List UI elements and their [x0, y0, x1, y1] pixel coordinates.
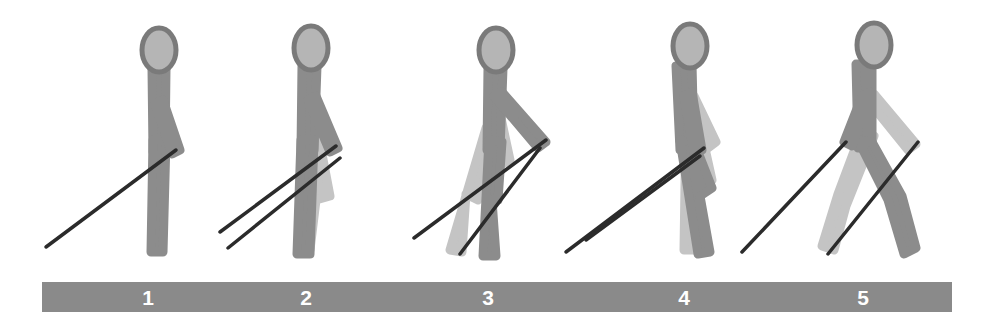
- step-number-label-1: 1: [142, 286, 154, 309]
- gait-figure-1-near-leg: [151, 140, 166, 252]
- gait-figure-5-head: [857, 23, 891, 67]
- step-number-label-2: 2: [300, 286, 312, 309]
- gait-figure-2-head: [294, 26, 328, 70]
- step-number-label-3: 3: [482, 286, 494, 309]
- step-number-label-5: 5: [857, 286, 869, 309]
- step-number-label-4: 4: [678, 286, 690, 309]
- ground-bar: [42, 282, 952, 312]
- gait-figure-3-head: [479, 28, 513, 72]
- gait-figure-3-near-leg: [483, 140, 502, 256]
- gait-figure-1-head: [142, 28, 176, 72]
- gait-sequence-figure: 12345: [0, 0, 990, 328]
- gait-figure-2-near-leg: [297, 140, 314, 254]
- gait-sequence-svg: 12345: [0, 0, 990, 328]
- gait-figure-4-head: [673, 24, 707, 68]
